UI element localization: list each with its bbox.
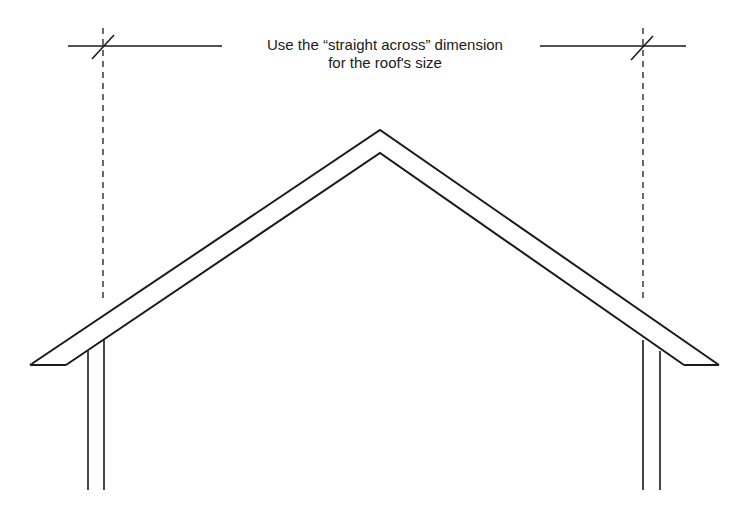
diagram-svg: [0, 0, 750, 519]
dimension-label-line2: for the roof's size: [230, 54, 540, 72]
roof-outer-edge: [30, 130, 719, 365]
roof-dimension-diagram: Use the “straight across” dimension for …: [0, 0, 750, 519]
dimension-tick-right: [631, 36, 653, 60]
dimension-label: Use the “straight across” dimension for …: [230, 36, 540, 72]
dimension-label-line1: Use the “straight across” dimension: [230, 36, 540, 54]
roof-inner-edge: [66, 153, 684, 365]
